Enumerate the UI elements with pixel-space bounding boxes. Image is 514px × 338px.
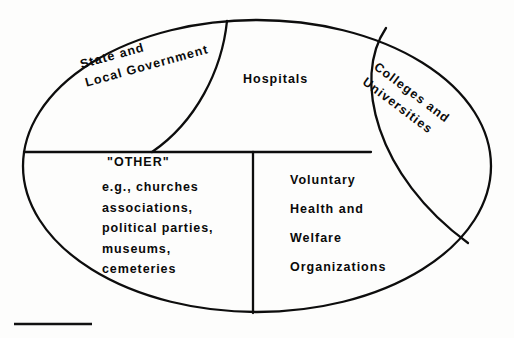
figure-root: State and Local Government Hospitals Col…: [0, 0, 514, 338]
segments-ellipse-diagram: [0, 0, 514, 338]
segment-label-other-examples: e.g., churches associations, political p…: [102, 177, 213, 280]
segment-label-hospitals: Hospitals: [243, 73, 308, 86]
segment-label-other-title: "OTHER": [107, 156, 170, 169]
segment-label-voluntary-health-welfare: Voluntary Health and Welfare Organizatio…: [290, 166, 386, 282]
